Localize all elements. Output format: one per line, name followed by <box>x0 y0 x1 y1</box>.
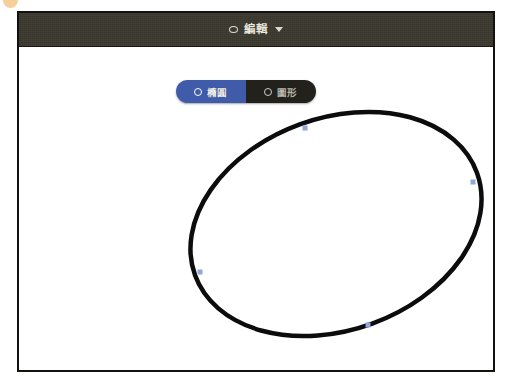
ellipse-outline-icon <box>264 88 272 96</box>
segment-ellipse[interactable]: 橢圓 <box>176 80 246 103</box>
segment-shape[interactable]: 圖形 <box>246 80 316 103</box>
shape-mode-segmented[interactable]: 橢圓 圖形 <box>176 80 316 103</box>
edit-menu-button[interactable]: 編輯 <box>223 23 288 37</box>
ellipse-outline-icon <box>229 26 238 33</box>
handle-top[interactable] <box>303 126 308 131</box>
edit-menu-label: 編輯 <box>244 24 267 36</box>
cropped-icon-fragment <box>3 0 18 8</box>
handle-right[interactable] <box>471 180 476 185</box>
app-window: 編輯 橢圓 圖形 <box>17 11 495 372</box>
segment-shape-label: 圖形 <box>277 85 298 99</box>
shape-handles <box>198 126 476 328</box>
drawn-ellipse[interactable] <box>159 73 493 371</box>
handle-bottom[interactable] <box>366 323 371 328</box>
title-bar: 編輯 <box>19 13 493 47</box>
ellipse-outline-icon <box>194 88 202 96</box>
chevron-down-icon <box>275 27 283 32</box>
segment-ellipse-label: 橢圓 <box>207 85 228 99</box>
handle-left[interactable] <box>198 270 203 275</box>
drawing-canvas[interactable]: 橢圓 圖形 <box>19 47 493 371</box>
